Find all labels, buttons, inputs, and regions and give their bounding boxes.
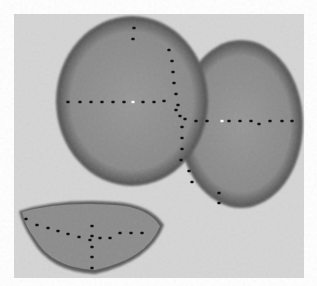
annotation-dot bbox=[180, 126, 183, 128]
annotation-dot bbox=[35, 224, 38, 226]
annotation-dot bbox=[90, 225, 93, 227]
annotation-dot bbox=[170, 60, 173, 62]
annotation-dot bbox=[280, 120, 283, 122]
annotation-dot bbox=[152, 101, 155, 103]
annotation-dot bbox=[78, 101, 81, 103]
annotation-dot bbox=[46, 227, 49, 229]
annotation-dot bbox=[227, 120, 230, 122]
annotation-dot bbox=[178, 115, 181, 117]
annotation-dot bbox=[131, 38, 134, 40]
annotation-dot bbox=[172, 82, 175, 84]
annotation-dot bbox=[132, 27, 135, 29]
annotation-dot bbox=[129, 232, 132, 234]
annotation-dot bbox=[217, 192, 220, 194]
annotation-dot bbox=[56, 230, 59, 232]
annotation-dot bbox=[118, 232, 121, 234]
annotation-dot bbox=[24, 218, 27, 220]
annotation-dot bbox=[176, 104, 179, 106]
center-marker bbox=[221, 120, 224, 122]
annotation-dot bbox=[238, 120, 241, 122]
annotation-dot bbox=[187, 170, 190, 172]
annotation-dot bbox=[90, 256, 93, 258]
annotation-dot bbox=[98, 237, 101, 239]
annotation-dot bbox=[257, 123, 260, 125]
annotation-dot bbox=[180, 148, 183, 150]
annotation-dot bbox=[90, 246, 93, 248]
annotation-dot bbox=[122, 101, 125, 103]
annotation-dot bbox=[179, 159, 182, 161]
annotation-dot bbox=[88, 239, 91, 241]
annotation-dot bbox=[66, 101, 69, 103]
annotation-dot bbox=[290, 120, 293, 122]
annotation-dot bbox=[141, 101, 144, 103]
annotation-dot bbox=[90, 267, 93, 269]
annotation-dot bbox=[100, 101, 103, 103]
annotation-dot bbox=[140, 232, 143, 234]
micrograph-scene bbox=[0, 0, 317, 286]
annotation-dot bbox=[190, 181, 193, 183]
annotation-dot bbox=[111, 101, 114, 103]
annotation-dot bbox=[205, 120, 208, 122]
annotation-dot bbox=[108, 237, 111, 239]
annotation-dot bbox=[77, 236, 80, 238]
annotation-dot bbox=[89, 101, 92, 103]
annotation-dot bbox=[183, 118, 186, 120]
annotation-dot bbox=[194, 120, 197, 122]
center-marker bbox=[132, 101, 135, 103]
annotation-dot bbox=[66, 233, 69, 235]
annotation-dot bbox=[180, 137, 183, 139]
annotation-dot bbox=[174, 93, 177, 95]
annotation-dot bbox=[217, 202, 220, 204]
annotation-dot bbox=[90, 235, 93, 237]
annotation-dot bbox=[174, 109, 177, 111]
annotation-dot bbox=[249, 120, 252, 122]
annotation-dot bbox=[167, 49, 170, 51]
annotation-dot bbox=[268, 120, 271, 122]
annotation-dot bbox=[162, 100, 165, 102]
annotation-dot bbox=[171, 71, 174, 73]
